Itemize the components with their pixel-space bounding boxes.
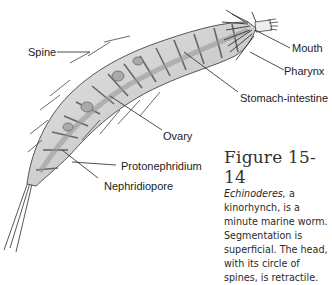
caption-body: Echinoderes, a kinorhynch, is a minute m… (224, 187, 332, 285)
label-mouth: Mouth (292, 42, 323, 54)
tail-spines-icon (4, 182, 32, 252)
mouth-cone-icon (255, 19, 278, 32)
label-stomach-intestine: Stomach-intestine (240, 92, 328, 104)
caption-title: Figure 15-14 (224, 147, 332, 187)
caption-text: a kinorhynch, is a minute marine worm. S… (224, 188, 328, 283)
label-protonephridium: Protonephridium (121, 160, 202, 172)
label-nephridiopore: Nephridiopore (104, 180, 173, 192)
figure-caption: Figure 15-14 Echinoderes, a kinorhynch, … (224, 147, 332, 285)
label-spine: Spine (28, 46, 56, 58)
label-pharynx: Pharynx (284, 65, 324, 77)
label-ovary: Ovary (163, 130, 192, 142)
caption-genus: Echinoderes, (224, 188, 286, 199)
